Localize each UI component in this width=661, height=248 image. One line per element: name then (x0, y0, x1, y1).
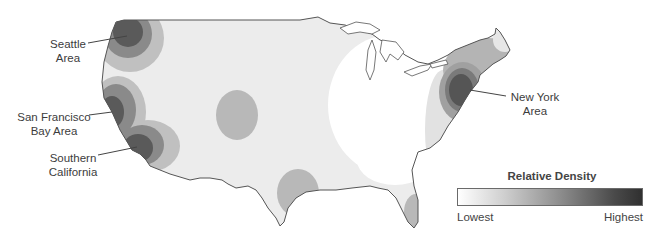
legend-high-label: Highest (604, 211, 643, 223)
callout-ny-line2: Area (505, 104, 565, 118)
colorado-density (216, 90, 258, 140)
callout-seattle: Seattle Area (46, 37, 90, 65)
legend-gradient-bar (457, 188, 643, 206)
callout-ny: New York Area (505, 90, 565, 118)
legend-low-label: Lowest (457, 211, 493, 223)
callout-socal-line2: California (44, 165, 102, 179)
callout-seattle-line1: Seattle (46, 37, 90, 51)
us-density-map (0, 0, 661, 248)
callout-ny-line1: New York (505, 90, 565, 104)
callout-socal-line1: Southern (44, 151, 102, 165)
callout-socal: Southern California (44, 151, 102, 179)
callout-seattle-line2: Area (46, 51, 90, 65)
callout-sf-line1: San Francisco (14, 110, 94, 124)
callout-sf-line2: Bay Area (14, 124, 94, 138)
seattle-density (96, 4, 164, 72)
callout-sf: San Francisco Bay Area (14, 110, 94, 138)
legend-title: Relative Density (482, 170, 622, 182)
texas-density (277, 169, 319, 217)
